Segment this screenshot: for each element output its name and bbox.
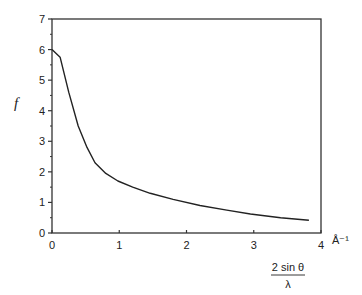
y-tick-label: 4	[39, 105, 45, 117]
y-tick-label: 0	[39, 227, 45, 239]
y-tick-label: 6	[39, 44, 45, 56]
y-axis-label: f	[14, 95, 20, 111]
data-line	[52, 50, 309, 221]
chart: 01234567 01234 f Å⁻¹ 2 sin θ λ	[0, 0, 362, 295]
y-tick-label: 2	[39, 166, 45, 178]
x-tick-label: 0	[49, 239, 55, 251]
x-axis-label-numerator: 2 sin θ	[272, 261, 304, 273]
y-axis-ticks: 01234567	[39, 13, 52, 239]
y-tick-label: 7	[39, 13, 45, 25]
y-tick-label: 1	[39, 196, 45, 208]
x-tick-label: 2	[183, 239, 189, 251]
x-axis-unit: Å⁻¹	[332, 234, 349, 246]
x-tick-label: 4	[318, 239, 324, 251]
x-tick-label: 3	[251, 239, 257, 251]
plot-frame	[52, 19, 321, 233]
y-tick-label: 5	[39, 74, 45, 86]
x-tick-label: 1	[116, 239, 122, 251]
y-tick-label: 3	[39, 135, 45, 147]
x-axis-label-denominator: λ	[285, 278, 291, 290]
